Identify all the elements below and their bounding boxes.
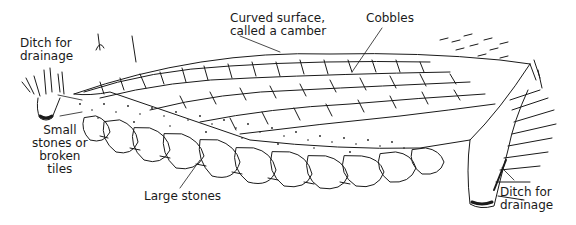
leader-lines bbox=[58, 28, 514, 188]
label-cobbles: Cobbles bbox=[366, 12, 414, 25]
cobble-surface-drawing bbox=[74, 34, 530, 148]
small-stones-layer-drawing bbox=[79, 103, 405, 153]
label-ditch-right: Ditch for drainage bbox=[500, 186, 553, 212]
label-small-stones: Small stones or broken tiles bbox=[32, 124, 88, 176]
large-stones-drawing bbox=[83, 116, 444, 189]
label-camber: Curved surface, called a camber bbox=[230, 12, 326, 38]
label-ditch-left: Ditch for drainage bbox=[20, 37, 73, 63]
label-large-stones: Large stones bbox=[144, 190, 221, 203]
